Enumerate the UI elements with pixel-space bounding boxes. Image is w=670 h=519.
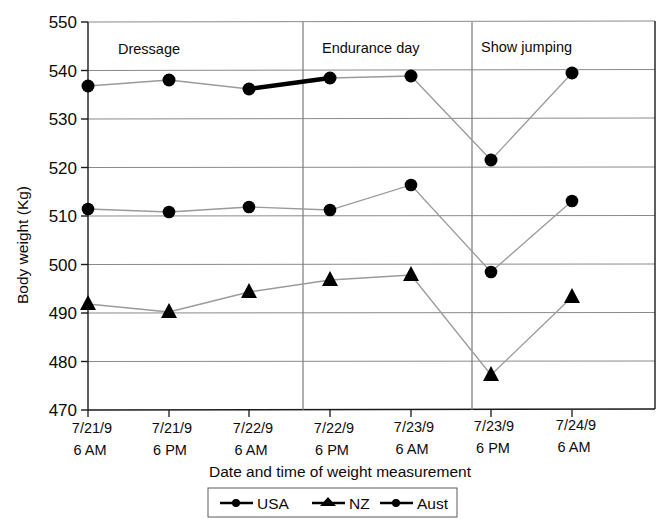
phase-label-dressage: Dressage — [118, 41, 180, 57]
series-usa-point — [324, 204, 337, 217]
y-tick-480: 480 — [49, 353, 77, 372]
line-chart: 550 540 530 520 510 500 490 480 470 Dres… — [0, 0, 670, 519]
y-tick-510: 510 — [49, 207, 77, 226]
y-tick-490: 490 — [49, 304, 77, 323]
x-tick-5-date: 7/23/9 — [474, 418, 514, 434]
series-usa-point — [243, 201, 256, 214]
series-usa-point — [566, 195, 579, 208]
legend-label-usa: USA — [257, 495, 290, 512]
legend-circle-icon-usa — [232, 499, 240, 507]
series-usa-point — [405, 179, 418, 192]
x-tick-0-time: 6 AM — [73, 442, 106, 458]
phase-label-endurance: Endurance day — [322, 40, 420, 56]
legend-circle-icon-aust — [392, 499, 400, 507]
x-tick-2-date: 7/22/9 — [233, 420, 273, 436]
legend-label-nz: NZ — [349, 495, 370, 512]
phase-label-showjumping: Show jumping — [481, 39, 572, 55]
series-aust-point — [243, 83, 256, 96]
x-tick-3-date: 7/22/9 — [314, 420, 354, 436]
x-tick-3-time: 6 PM — [315, 442, 349, 458]
legend-label-aust: Aust — [417, 495, 449, 512]
series-aust-point — [566, 67, 579, 80]
legend: USA NZ Aust — [208, 488, 457, 517]
chart-page: 550 540 530 520 510 500 490 480 470 Dres… — [0, 0, 670, 519]
series-aust-point — [324, 72, 337, 85]
x-axis-title: Date and time of weight measurement — [209, 463, 472, 480]
series-aust-point — [82, 80, 95, 93]
x-tick-2-time: 6 AM — [234, 442, 267, 458]
y-tick-470: 470 — [49, 401, 77, 420]
x-tick-1-time: 6 PM — [153, 442, 187, 458]
x-axis-tick-labels: 7/21/9 6 AM 7/21/9 6 PM 7/22/9 6 AM 7/22… — [72, 417, 596, 458]
y-tick-530: 530 — [49, 110, 77, 129]
x-tick-6-time: 6 AM — [557, 439, 590, 455]
y-axis-tick-labels: 550 540 530 520 510 500 490 480 470 — [49, 13, 77, 420]
y-tick-520: 520 — [49, 159, 77, 178]
series-aust-point — [485, 154, 498, 167]
series-usa-point — [82, 203, 95, 216]
x-tick-4-time: 6 AM — [395, 441, 428, 457]
x-tick-0-date: 7/21/9 — [72, 420, 112, 436]
x-tick-1-date: 7/21/9 — [152, 420, 192, 436]
y-tick-540: 540 — [49, 62, 77, 81]
y-axis-title: Body weight (Kg) — [14, 186, 31, 304]
x-tick-6-date: 7/24/9 — [556, 417, 596, 433]
series-aust-point — [163, 74, 176, 87]
series-aust-point — [405, 70, 418, 83]
x-axis-ticks — [88, 410, 572, 417]
y-tick-500: 500 — [49, 256, 77, 275]
x-tick-5-time: 6 PM — [476, 440, 510, 456]
series-usa-point — [485, 266, 498, 279]
series-usa-point — [163, 206, 176, 219]
x-tick-4-date: 7/23/9 — [394, 419, 434, 435]
y-tick-550: 550 — [49, 13, 77, 32]
